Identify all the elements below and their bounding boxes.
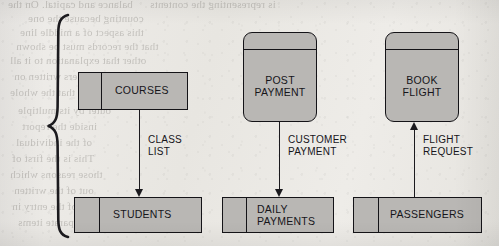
flow-line-class-list <box>139 110 140 189</box>
flow-label-flight-request: FLIGHT REQUEST <box>423 134 473 157</box>
data-store-daily-payments[interactable]: DAILY PAYMENTS <box>222 197 334 233</box>
arrowhead-class-list <box>135 189 143 197</box>
process-post-payment[interactable]: POST PAYMENT <box>243 32 317 122</box>
flow-label-class-list: CLASS LIST <box>148 134 182 157</box>
store-divider <box>101 73 102 109</box>
process-label: POST PAYMENT <box>244 74 316 98</box>
figure-canvas: balance and capital. On theis representi… <box>0 0 499 246</box>
showthrough-line: that the records must be shown <box>16 40 159 52</box>
data-store-passengers[interactable]: PASSENGERS <box>353 197 482 233</box>
data-store-label: STUDENTS <box>113 209 172 221</box>
process-book-flight[interactable]: BOOK FLIGHT <box>385 32 459 122</box>
flow-line-flight-request <box>414 130 415 197</box>
data-store-label: DAILY PAYMENTS <box>257 204 315 227</box>
showthrough-line: balance and capital. On the <box>8 0 133 10</box>
arrowhead-flight-request <box>410 122 418 130</box>
arrowhead-customer-payment <box>275 189 283 197</box>
store-divider <box>378 198 379 232</box>
process-header-rule <box>244 49 316 50</box>
flow-label-customer-payment: CUSTOMER PAYMENT <box>288 134 347 157</box>
flow-line-customer-payment <box>279 122 280 189</box>
showthrough-line: this aspect of a middle line <box>20 26 144 38</box>
data-store-label: COURSES <box>115 85 169 97</box>
process-label: BOOK FLIGHT <box>386 74 458 98</box>
process-header-rule <box>386 49 458 50</box>
left-curly-brace-icon <box>44 12 74 240</box>
data-store-students[interactable]: STUDENTS <box>74 197 202 233</box>
store-divider <box>246 198 247 232</box>
showthrough-line: other that explanation to it all <box>10 54 146 66</box>
store-divider <box>99 198 100 232</box>
showthrough-line: is representing the contents <box>150 0 276 10</box>
data-store-label: PASSENGERS <box>390 209 464 221</box>
data-store-courses[interactable]: COURSES <box>78 72 188 110</box>
